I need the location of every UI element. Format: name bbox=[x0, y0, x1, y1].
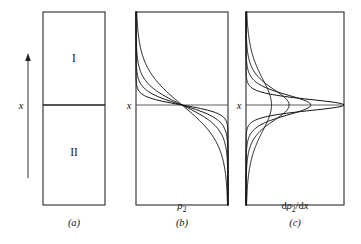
panel-c-caption: (c) bbox=[289, 217, 301, 229]
panel-a: I II x (a) bbox=[18, 12, 105, 229]
panel-b-quantity-label: ρ2 bbox=[177, 200, 187, 214]
x-axis-arrow: x bbox=[18, 53, 31, 178]
panel-b-axis-label: x bbox=[126, 100, 132, 111]
region-label-I: I bbox=[72, 52, 76, 64]
density-profile-curve-1 bbox=[136, 12, 228, 205]
panel-c-quantity-label: dρ2/dx bbox=[282, 200, 309, 214]
panel-b-caption: (b) bbox=[176, 217, 189, 229]
density-gradient-curve-3 bbox=[246, 12, 289, 205]
density-gradient-curve-4 bbox=[247, 12, 272, 205]
density-profile-curve-4 bbox=[137, 12, 228, 205]
density-profile-curve-2 bbox=[136, 12, 228, 205]
region-label-II: II bbox=[70, 146, 78, 158]
panel-a-caption: (a) bbox=[68, 217, 81, 229]
panel-c: x dρ2/dx (c) bbox=[236, 12, 344, 229]
panel-b-curve-group bbox=[136, 12, 228, 205]
panel-b-frame bbox=[136, 12, 228, 205]
figure-root: I II x (a) x ρ2 (b) x dρ2/dx (c) bbox=[0, 0, 361, 244]
panel-a-frame bbox=[43, 12, 105, 205]
density-gradient-curve-1 bbox=[246, 12, 344, 205]
panel-b: x ρ2 (b) bbox=[126, 12, 228, 229]
panel-a-axis-label: x bbox=[18, 100, 24, 111]
density-gradient-curve-2 bbox=[246, 12, 311, 205]
arrow-head-icon bbox=[25, 53, 31, 61]
panel-c-axis-label: x bbox=[236, 100, 242, 111]
panel-c-curve-group bbox=[246, 12, 344, 205]
density-profile-curve-3 bbox=[136, 12, 228, 205]
figure-canvas: I II x (a) x ρ2 (b) x dρ2/dx (c) bbox=[0, 0, 361, 244]
